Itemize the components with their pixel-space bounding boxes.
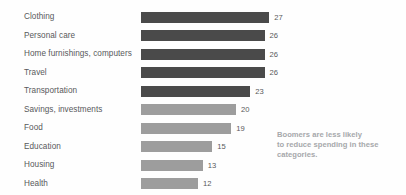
horizontal-bar-chart: Clothing 27 Personal care 26 Home furnis… bbox=[0, 0, 406, 195]
bar bbox=[141, 86, 250, 97]
value-label: 15 bbox=[217, 141, 225, 152]
bar bbox=[141, 104, 236, 115]
category-label: Health bbox=[24, 175, 48, 194]
bar bbox=[141, 178, 198, 189]
value-label: 27 bbox=[274, 12, 282, 23]
table-row: Travel 26 bbox=[0, 64, 406, 83]
value-label: 26 bbox=[270, 30, 278, 41]
value-label: 12 bbox=[203, 178, 211, 189]
bar bbox=[141, 12, 269, 23]
category-label: Savings, investments bbox=[24, 101, 102, 120]
category-label: Personal care bbox=[24, 27, 75, 46]
table-row: Personal care 26 bbox=[0, 27, 406, 46]
bar bbox=[141, 160, 203, 171]
chart-annotation: Boomers are less likely to reduce spendi… bbox=[277, 130, 403, 161]
value-label: 19 bbox=[236, 123, 244, 134]
category-label: Housing bbox=[24, 156, 54, 175]
value-label: 26 bbox=[270, 49, 278, 60]
bar bbox=[141, 49, 265, 60]
bar bbox=[141, 141, 212, 152]
table-row: Transportation 23 bbox=[0, 82, 406, 101]
category-label: Home furnishings, computers bbox=[24, 45, 132, 64]
bar bbox=[141, 67, 265, 78]
value-label: 13 bbox=[208, 160, 216, 171]
table-row: Home furnishings, computers 26 bbox=[0, 45, 406, 64]
bar bbox=[141, 123, 231, 134]
value-label: 26 bbox=[270, 67, 278, 78]
category-label: Travel bbox=[24, 64, 47, 83]
bar bbox=[141, 30, 265, 41]
table-row: Health 12 bbox=[0, 175, 406, 194]
value-label: 20 bbox=[241, 104, 249, 115]
annotation-line: to reduce spending in these bbox=[277, 140, 403, 150]
table-row: Savings, investments 20 bbox=[0, 101, 406, 120]
category-label: Transportation bbox=[24, 82, 77, 101]
annotation-line: Boomers are less likely bbox=[277, 130, 403, 140]
annotation-line: categories. bbox=[277, 150, 403, 160]
value-label: 23 bbox=[255, 86, 263, 97]
category-label: Clothing bbox=[24, 8, 54, 27]
table-row: Clothing 27 bbox=[0, 8, 406, 27]
category-label: Food bbox=[24, 119, 43, 138]
category-label: Education bbox=[24, 138, 61, 157]
